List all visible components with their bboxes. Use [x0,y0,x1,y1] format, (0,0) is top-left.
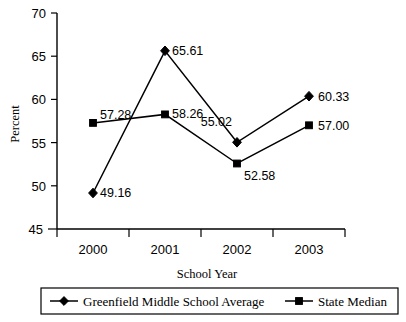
diamond-marker-icon [60,297,69,306]
data-point-greenfield-2003 [305,91,314,101]
y-axis-tick-labels: 70 65 60 55 50 45 [29,6,46,237]
data-point-state-2002 [234,160,241,167]
x-tick-label-2000: 2000 [79,242,108,257]
y-tick-label-60: 60 [32,92,46,107]
line-chart: 70 65 60 55 50 45 2000 2001 2002 2003 Sc… [0,0,406,322]
y-axis-ticks [48,13,57,229]
value-label-state-2002: 52.58 [244,169,275,183]
value-label-greenfield-2001: 65.61 [172,44,203,58]
x-tick-label-2003: 2003 [295,242,324,257]
chart-canvas: 70 65 60 55 50 45 2000 2001 2002 2003 Sc… [0,0,406,322]
legend-label-state-median: State Median [318,294,387,309]
square-marker-icon [296,298,303,305]
value-label-state-2001: 58.26 [172,107,203,121]
y-tick-label-45: 45 [29,222,43,237]
chart-legend: Greenfield Middle School Average State M… [41,288,398,314]
value-label-greenfield-2002: 55.02 [201,115,232,129]
value-label-greenfield-2003: 60.33 [318,90,349,104]
x-tick-label-2002: 2002 [223,242,252,257]
x-axis-tick-labels: 2000 2001 2002 2003 [79,242,324,257]
data-point-state-2001 [162,111,169,118]
value-label-state-2000: 57.28 [100,108,131,122]
legend-item-state-median[interactable]: State Median [285,294,387,309]
legend-label-greenfield: Greenfield Middle School Average [83,294,265,309]
legend-item-greenfield[interactable]: Greenfield Middle School Average [50,294,265,309]
data-point-state-2003 [306,122,313,129]
y-tick-label-70: 70 [32,6,46,21]
y-tick-label-65: 65 [32,49,46,64]
data-point-state-2000 [90,120,97,127]
x-axis-ticks [57,229,345,237]
y-tick-label-50: 50 [32,179,46,194]
data-point-greenfield-2000 [89,188,98,198]
x-axis-title: School Year [177,267,238,281]
value-label-greenfield-2000: 49.16 [100,186,131,200]
x-tick-label-2001: 2001 [151,242,180,257]
value-label-state-2003: 57.00 [318,119,349,133]
y-tick-label-55: 55 [32,136,46,151]
y-axis-title: Percent [8,105,22,143]
